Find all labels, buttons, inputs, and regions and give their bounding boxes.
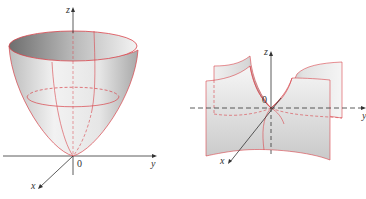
z-axis-label: z <box>65 4 70 15</box>
hyperbolic-paraboloid-figure: z y x 0 <box>190 46 366 166</box>
z-axis-arrow-icon <box>71 7 75 12</box>
z-axis-label: z <box>263 46 268 57</box>
x-axis-label: x <box>219 155 225 166</box>
z-axis-arrow-icon <box>269 51 273 56</box>
y-axis-label: y <box>150 158 156 169</box>
y-axis-label: y <box>361 110 366 121</box>
origin-label: 0 <box>77 158 82 169</box>
figure-canvas: z y x 0 z y x 0 <box>0 0 366 199</box>
elliptic-paraboloid-figure: z y x 0 <box>3 4 157 191</box>
x-axis-label: x <box>30 180 36 191</box>
x-axis-left <box>40 156 73 187</box>
origin-label: 0 <box>262 94 267 105</box>
paraboloid-surface <box>9 46 138 156</box>
saddle-front <box>206 66 330 160</box>
